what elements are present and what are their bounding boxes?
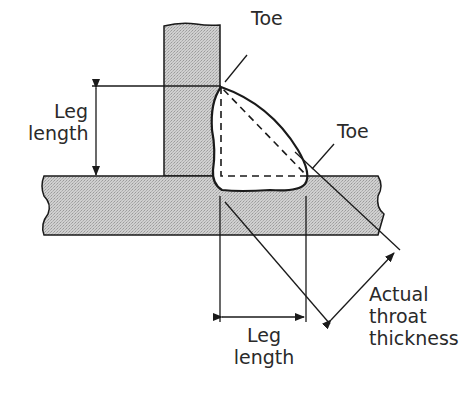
throat-label-line3: thickness (369, 327, 459, 349)
leg-length-label-horizontal-line2: length (226, 346, 302, 368)
leg-length-label-horizontal: Leg length (226, 324, 302, 368)
leg-length-label-horizontal-line1: Leg (226, 324, 302, 346)
vertical-plate (164, 23, 220, 176)
leg-length-label-vertical: Leg length (40, 100, 88, 144)
toe-leader-right (312, 144, 334, 169)
throat-thickness-label: Actual throat thickness (369, 283, 459, 349)
toe-leader-top (225, 55, 247, 82)
leg-length-label-vertical-line2: length (28, 122, 88, 144)
base-plate (42, 176, 384, 235)
throat-label-line1: Actual (369, 283, 459, 305)
toe-label-top: Toe (251, 7, 283, 29)
toe-label-right: Toe (337, 120, 369, 142)
throat-label-line2: throat (369, 305, 459, 327)
leg-length-label-vertical-line1: Leg (40, 100, 88, 122)
